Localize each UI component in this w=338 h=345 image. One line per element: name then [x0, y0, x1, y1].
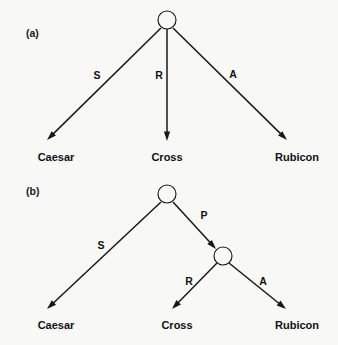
panel-b-label: (b)	[26, 185, 39, 197]
edge-line-a-b	[229, 263, 280, 304]
root-node-a	[158, 11, 176, 29]
edge-label-s-a: S	[93, 69, 100, 81]
edge-label-s-b: S	[97, 239, 104, 251]
edge-line-a-a	[173, 28, 281, 134]
edge-label-r-a: R	[155, 69, 163, 81]
panel-a: (a) S R A Caesar Cross Rubicon	[26, 11, 319, 163]
edge-label-r-b: R	[185, 275, 193, 287]
arrowhead-r-a	[164, 132, 170, 142]
edge-line-s-a	[53, 28, 161, 134]
leaf-caesar-b: Caesar	[38, 319, 75, 331]
inner-node-b	[214, 247, 232, 265]
figure-canvas: (a) S R A Caesar Cross Rubicon (b)	[0, 0, 338, 345]
panel-b: (b) S P R A Caesar Cross Rubicon	[26, 185, 319, 331]
tree-diagram: (a) S R A Caesar Cross Rubicon (b)	[0, 0, 338, 345]
leaf-rubicon-b: Rubicon	[275, 319, 319, 331]
leaf-caesar-a: Caesar	[38, 151, 75, 163]
edge-label-p-b: P	[200, 209, 207, 221]
leaf-cross-b: Cross	[161, 319, 192, 331]
edge-label-a-a: A	[229, 68, 237, 80]
edge-label-a-b: A	[259, 275, 267, 287]
panel-a-label: (a)	[26, 27, 39, 39]
leaf-rubicon-a: Rubicon	[275, 151, 319, 163]
leaf-cross-a: Cross	[151, 151, 182, 163]
edge-line-s-b	[53, 202, 161, 304]
root-node-b	[158, 185, 176, 203]
edge-line-r-b	[178, 263, 217, 303]
